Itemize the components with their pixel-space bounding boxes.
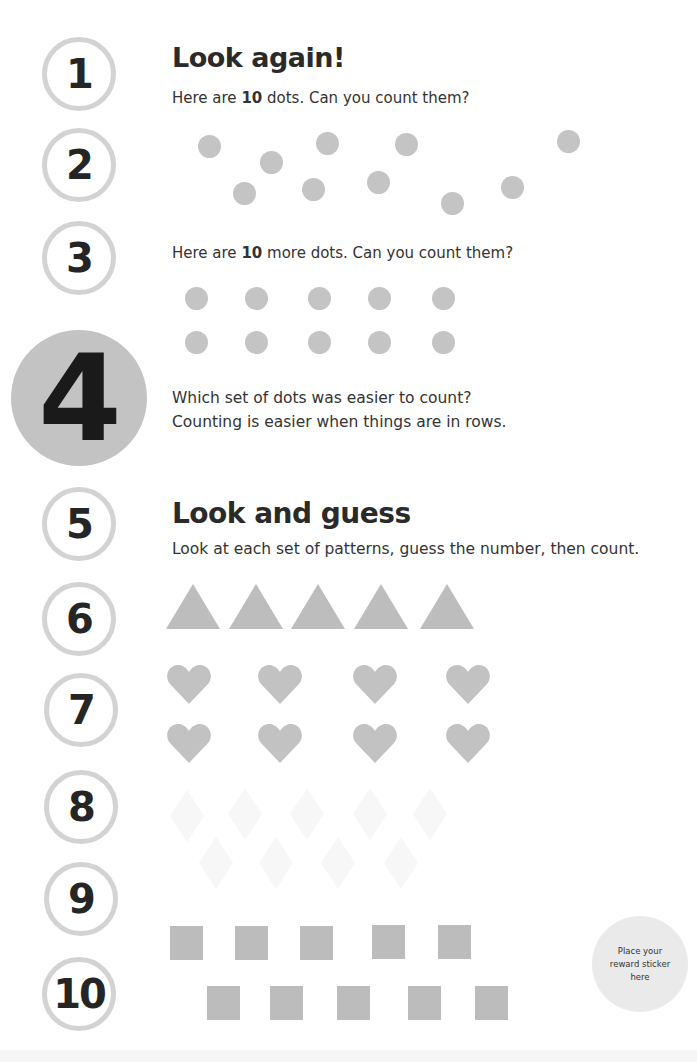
dot [233,182,256,205]
number-badge-1: 1 [42,37,116,111]
diamond-shape [170,790,204,842]
triangle-shape [229,584,283,629]
number-badge-2: 2 [42,128,116,202]
diamond-shape [321,837,355,889]
dot [302,178,325,201]
dot [557,130,580,153]
dot [501,176,524,199]
triangle-shape [291,584,345,629]
triangle-shape [166,584,220,629]
prompt-text: dots. Can you count them? [262,89,469,107]
square-shape [207,986,240,1020]
square-shape [170,926,203,960]
triangle-shape [420,584,474,629]
dot [308,287,331,310]
dot [368,331,391,354]
dot [441,192,464,215]
diamond-shape [199,837,233,889]
question-line-2: Counting is easier when things are in ro… [172,410,506,434]
diamond-shape [259,837,293,889]
number-badge-3: 3 [42,221,116,295]
prompt-count: 10 [241,89,262,107]
dot [185,287,208,310]
square-shape [475,986,508,1020]
heart-shape [166,721,212,767]
sticker-label: Place your reward sticker here [609,945,671,984]
heart-shape [445,721,491,767]
prompt-row-dots: Here are 10 more dots. Can you count the… [172,241,513,265]
prompt-count: 10 [241,244,262,262]
number-badge-6: 6 [42,582,116,656]
square-shape [270,986,303,1020]
dot [316,132,339,155]
dot [368,287,391,310]
triangle-shape [354,584,408,629]
dot [367,171,390,194]
square-shape [235,926,268,960]
heart-shape [166,662,212,708]
diamond-shape [384,837,418,889]
heart-shape [257,721,303,767]
dot [245,331,268,354]
section-title-look-and-guess: Look and guess [172,497,411,530]
number-badge-5: 5 [42,487,116,561]
reward-sticker-spot: Place your reward sticker here [592,916,688,1012]
page-bottom-edge [0,1050,697,1062]
number-badge-4-highlighted: 4 [11,330,147,466]
square-shape [300,926,333,960]
number-badge-10: 10 [42,957,116,1031]
diamond-shape [413,788,447,840]
dot [185,331,208,354]
dot [308,331,331,354]
heart-shape [257,662,303,708]
section-title-look-again: Look again! [172,42,345,73]
number-badge-9: 9 [44,862,118,936]
dot [432,287,455,310]
prompt-text: more dots. Can you count them? [262,244,513,262]
dot [260,151,283,174]
dot [198,135,221,158]
diamond-shape [290,788,324,840]
square-shape [438,925,471,959]
dot [395,133,418,156]
heart-shape [352,721,398,767]
square-shape [372,925,405,959]
heart-shape [445,662,491,708]
number-badge-7: 7 [44,673,118,747]
dot [245,287,268,310]
prompt-scattered-dots: Here are 10 dots. Can you count them? [172,86,470,110]
square-shape [408,986,441,1020]
prompt-text: Here are [172,89,241,107]
question-line-1: Which set of dots was easier to count? [172,386,472,410]
number-badge-8: 8 [44,770,118,844]
square-shape [337,986,370,1020]
heart-shape [352,662,398,708]
diamond-shape [228,788,262,840]
diamond-shape [353,788,387,840]
instruction-text: Look at each set of patterns, guess the … [172,537,639,561]
prompt-text: Here are [172,244,241,262]
dot [432,331,455,354]
